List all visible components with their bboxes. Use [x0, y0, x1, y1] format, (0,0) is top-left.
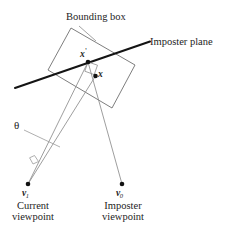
imposter-plane-diagram: Bounding box Imposter plane x' x θ v1 v0…: [0, 0, 231, 238]
theta-angle-marker: [30, 156, 39, 165]
point-v1: [26, 182, 31, 187]
point-x-label: x: [98, 70, 103, 80]
v1-subscript: 1: [26, 192, 29, 199]
point-v1-label: v1: [22, 189, 29, 199]
current-viewpoint-line2: viewpoint: [2, 211, 64, 222]
theta-leader-line: [24, 130, 60, 147]
prime-mark: ': [85, 47, 86, 56]
ray-v1-to-x: [28, 76, 96, 184]
imposter-viewpoint-label: Imposterviewpoint: [88, 200, 158, 222]
imposter-plane-label: Imposter plane: [150, 36, 213, 47]
point-x-prime-label: x': [80, 50, 86, 60]
point-x-prime: [86, 60, 91, 65]
imposter-viewpoint-line1: Imposter: [88, 200, 158, 211]
ray-v0-to-x-prime: [88, 62, 122, 184]
point-v0: [120, 182, 125, 187]
current-viewpoint-label: Currentviewpoint: [2, 200, 64, 222]
current-viewpoint-line1: Current: [2, 200, 64, 211]
theta-angle-label: θ: [14, 120, 19, 132]
bounding-box-shape: [48, 28, 135, 108]
point-v0-label: v0: [116, 189, 123, 199]
v0-subscript: 0: [120, 192, 123, 199]
bounding-box-leader-line: [79, 26, 96, 41]
bounding-box-label: Bounding box: [66, 11, 126, 22]
imposter-viewpoint-line2: viewpoint: [88, 211, 158, 222]
